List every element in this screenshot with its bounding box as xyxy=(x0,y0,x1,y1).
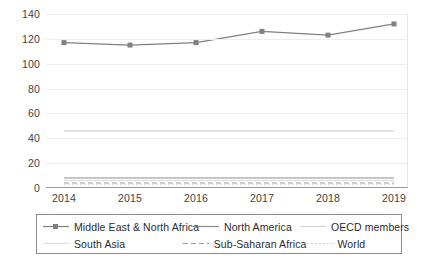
legend-label: South Asia xyxy=(74,238,125,250)
y-axis-tick-label: 20 xyxy=(28,157,40,169)
x-axis-tick-label: 2015 xyxy=(118,192,142,204)
y-axis-tick-label: 0 xyxy=(34,182,40,194)
y-axis-labels: 020406080100120140 xyxy=(0,14,40,188)
x-axis-tick-label: 2017 xyxy=(250,192,274,204)
x-axis-tick-label: 2016 xyxy=(184,192,208,204)
series-line xyxy=(64,24,394,45)
legend-swatch-icon xyxy=(183,238,209,249)
series-data-point xyxy=(194,40,199,45)
grid-line xyxy=(46,64,408,65)
y-axis-tick-label: 80 xyxy=(28,83,40,95)
legend-label: Middle East & North Africa xyxy=(74,221,199,233)
legend-item-middle-east-north-africa[interactable]: Middle East & North Africa xyxy=(43,218,193,235)
series-data-point xyxy=(326,33,331,38)
x-axis-tick-label: 2019 xyxy=(382,192,406,204)
legend-item-north-america[interactable]: North America xyxy=(193,218,300,235)
legend-label: Sub-Saharan Africa xyxy=(214,238,307,250)
line-chart: 020406080100120140 201420152016201720182… xyxy=(0,0,439,264)
x-axis-line xyxy=(46,187,408,188)
grid-line xyxy=(46,14,408,15)
x-axis-labels: 201420152016201720182019 xyxy=(46,190,408,208)
y-axis-tick-label: 140 xyxy=(22,8,40,20)
legend-swatch-icon xyxy=(300,221,326,232)
legend-swatch-icon xyxy=(193,221,219,232)
x-axis-tick-label: 2018 xyxy=(316,192,340,204)
x-axis-tick-label: 2014 xyxy=(52,192,76,204)
grid-line xyxy=(46,89,408,90)
grid-line xyxy=(46,163,408,164)
y-axis-tick-label: 40 xyxy=(28,132,40,144)
legend-item-sub-saharan-africa[interactable]: Sub-Saharan Africa xyxy=(183,235,307,252)
y-axis-tick-label: 100 xyxy=(22,58,40,70)
legend-item-oecd-members[interactable]: OECD members xyxy=(300,218,395,235)
grid-line xyxy=(46,113,408,114)
series-data-point xyxy=(62,40,67,45)
legend-label: North America xyxy=(224,221,292,233)
legend-row: Middle East & North Africa North America… xyxy=(43,218,395,235)
legend-item-south-asia[interactable]: South Asia xyxy=(43,235,183,252)
series-data-point xyxy=(260,29,265,34)
legend-swatch-icon xyxy=(43,221,69,232)
y-axis-tick-label: 60 xyxy=(28,107,40,119)
grid-line xyxy=(46,138,408,139)
legend-label: OECD members xyxy=(331,221,409,233)
legend-row: South Asia Sub-Saharan Africa World xyxy=(43,235,395,252)
series-data-point xyxy=(128,43,133,48)
legend-item-world[interactable]: World xyxy=(307,235,395,252)
plot-area xyxy=(46,14,408,188)
grid-line xyxy=(46,39,408,40)
series-data-point xyxy=(392,21,397,26)
y-axis-tick-label: 120 xyxy=(22,33,40,45)
legend-swatch-icon xyxy=(307,238,333,249)
series-layer xyxy=(46,14,408,188)
chart-legend: Middle East & North Africa North America… xyxy=(36,214,402,254)
legend-label: World xyxy=(338,238,366,250)
legend-swatch-icon xyxy=(43,238,69,249)
